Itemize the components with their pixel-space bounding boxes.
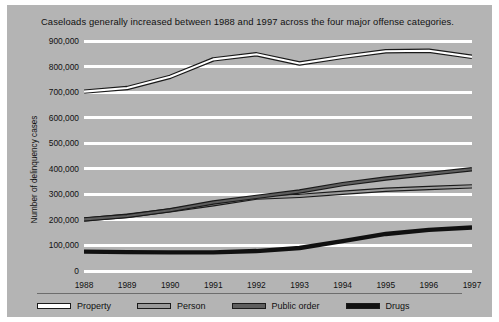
- x-tick-label: 1991: [204, 280, 223, 290]
- x-tick-label: 1988: [75, 280, 94, 290]
- chart-legend: PropertyPersonPublic orderDrugs: [37, 299, 462, 313]
- legend-label: Person: [177, 301, 206, 311]
- legend-label: Drugs: [386, 301, 410, 311]
- series-line-drugs: [84, 228, 472, 253]
- y-tick-label: 500,000: [49, 138, 79, 148]
- chart-figure: Caseloads generally increased between 19…: [7, 5, 492, 317]
- y-axis-label: Number of delinquency cases: [30, 100, 39, 240]
- y-tick-label: 400,000: [49, 164, 79, 174]
- chart-lines: [84, 41, 472, 271]
- x-tick-label: 1997: [463, 280, 482, 290]
- y-tick-label: 600,000: [49, 113, 79, 123]
- legend-item-person[interactable]: Person: [137, 301, 206, 311]
- x-tick-label: 1993: [290, 280, 309, 290]
- y-tick-label: 900,000: [49, 36, 79, 46]
- legend-swatch-icon: [232, 303, 266, 309]
- y-tick-label: 0: [74, 266, 79, 276]
- legend-item-drugs[interactable]: Drugs: [346, 301, 410, 311]
- legend-item-property[interactable]: Property: [37, 301, 111, 311]
- x-tick-label: 1995: [376, 280, 395, 290]
- y-tick-label: 700,000: [49, 87, 79, 97]
- y-tick-label: 100,000: [49, 240, 79, 250]
- y-tick-label: 800,000: [49, 62, 79, 72]
- x-tick-label: 1992: [247, 280, 266, 290]
- x-tick-label: 1990: [161, 280, 180, 290]
- x-tick-label: 1989: [118, 280, 137, 290]
- y-tick-label: 200,000: [49, 215, 79, 225]
- y-tick-label: 300,000: [49, 189, 79, 199]
- legend-swatch-icon: [37, 303, 71, 309]
- plot-area: 0100,000200,000300,000400,000500,000600,…: [84, 41, 472, 271]
- series-outline-property: [84, 51, 472, 92]
- legend-item-public-order[interactable]: Public order: [232, 301, 320, 311]
- legend-divider: [37, 293, 462, 294]
- legend-label: Public order: [272, 301, 320, 311]
- x-tick-label: 1996: [420, 280, 439, 290]
- legend-label: Property: [77, 301, 111, 311]
- chart-title: Caseloads generally increased between 19…: [41, 16, 481, 27]
- x-tick-label: 1994: [333, 280, 352, 290]
- legend-swatch-icon: [346, 303, 380, 309]
- legend-swatch-icon: [137, 303, 171, 309]
